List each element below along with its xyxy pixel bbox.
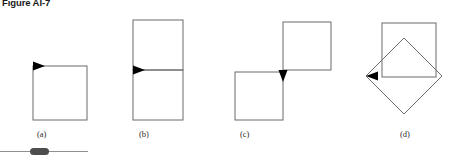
panel-a-caption: (a) bbox=[37, 129, 47, 139]
panel-a-arrowhead bbox=[33, 62, 45, 71]
panel-d-square bbox=[382, 23, 436, 77]
panel-b-arrowhead bbox=[133, 66, 145, 75]
panel-d-caption: (d) bbox=[400, 129, 410, 139]
panel-b-square-bottom bbox=[133, 70, 183, 120]
footer-pill-marker bbox=[30, 148, 49, 155]
panel-a: (a) bbox=[33, 62, 87, 140]
panel-c-caption: (c) bbox=[240, 129, 250, 139]
panel-c-square-upper-right bbox=[283, 22, 331, 70]
panel-c-square-lower-left bbox=[235, 72, 283, 120]
panel-a-square bbox=[33, 66, 87, 120]
panel-b: (b) bbox=[133, 20, 183, 139]
figure-container: Figure AI-7 (a) (b) (c) (d) bbox=[0, 0, 460, 161]
diagram-canvas: (a) (b) (c) (d) bbox=[0, 0, 460, 161]
panel-b-caption: (b) bbox=[139, 129, 149, 139]
panel-d-arrowhead bbox=[366, 72, 378, 81]
panel-b-square-top bbox=[133, 20, 183, 70]
panel-c-arrowhead bbox=[279, 70, 288, 82]
panel-c: (c) bbox=[235, 22, 331, 139]
panel-d: (d) bbox=[366, 23, 442, 139]
